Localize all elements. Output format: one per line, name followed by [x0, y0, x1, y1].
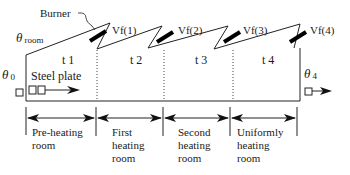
room-label-line: room	[237, 152, 283, 165]
entry-arrow-icon	[45, 86, 80, 94]
burner-icon-3	[224, 32, 240, 42]
theta4-label: θ4	[304, 68, 317, 82]
room-label-uniform-heating: Uniformly heating room	[237, 126, 283, 165]
theta0-label: θ0	[2, 69, 15, 83]
burner-label-vf4: Vf(4)	[310, 24, 334, 36]
steel-plate-icons	[16, 86, 45, 96]
room-label-line: Uniformly	[237, 126, 283, 139]
theta-room-label: θroom	[16, 32, 43, 46]
theta4-symbol: θ	[304, 66, 310, 81]
theta-room-symbol: θ	[16, 30, 22, 45]
exit-plate-icon	[305, 87, 332, 95]
burner-callout-line	[78, 13, 95, 30]
room-label-line: First	[112, 126, 144, 139]
room-label-preheating: Pre-heating room	[32, 126, 83, 152]
room-label-line: Pre-heating	[32, 126, 83, 139]
burner-icon-2	[157, 32, 173, 42]
zone-temp-t3: t 3	[195, 54, 207, 66]
burner-label-vf2: Vf(2)	[178, 24, 202, 36]
zone-temp-t2: t 2	[130, 54, 142, 66]
theta0-symbol: θ	[2, 67, 8, 82]
room-label-line: heating	[178, 139, 210, 152]
room-label-line: room	[112, 152, 144, 165]
theta-room-subscript: room	[24, 35, 43, 45]
room-label-line: Second	[178, 126, 210, 139]
room-label-second-heating: Second heating room	[178, 126, 210, 165]
room-label-line: heating	[112, 139, 144, 152]
theta4-subscript: 4	[312, 71, 317, 81]
room-label-first-heating: First heating room	[112, 126, 144, 165]
zone-dividers	[97, 50, 233, 101]
steel-plate-label: Steel plate	[31, 70, 81, 82]
zone-temp-t4: t 4	[262, 54, 274, 66]
burner-label: Burner	[40, 7, 71, 19]
burner-label-vf1: Vf(1)	[112, 24, 136, 36]
room-label-line: heating	[237, 139, 283, 152]
zone-temp-t1: t 1	[62, 54, 74, 66]
burner-label-vf3: Vf(3)	[243, 24, 267, 36]
room-label-line: room	[178, 152, 210, 165]
room-label-line: room	[32, 139, 83, 152]
theta0-subscript: 0	[10, 72, 15, 82]
